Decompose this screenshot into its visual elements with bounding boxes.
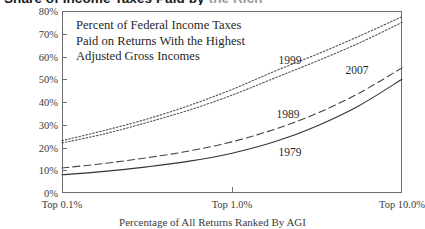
series-line-1999 (62, 22, 402, 143)
series-line-2007 (62, 17, 402, 141)
series-label-2007: 2007 (346, 64, 369, 76)
series-label-1999: 1999 (279, 54, 302, 66)
chart-page: Share of Income Taxes Paid by the Rich 0… (0, 0, 425, 229)
series-plot (0, 0, 425, 229)
series-label-1989: 1989 (277, 108, 300, 120)
series-line-1979 (62, 79, 402, 175)
series-label-1979: 1979 (279, 146, 302, 158)
